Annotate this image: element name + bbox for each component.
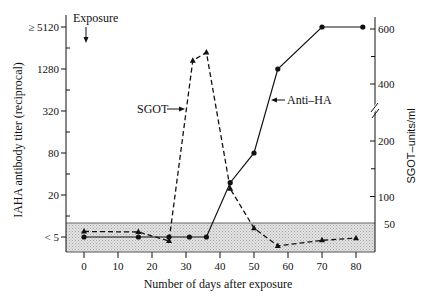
- left-tick-label: 20: [48, 189, 60, 201]
- arrow-left-icon: [271, 98, 277, 103]
- circle-marker-icon: [81, 234, 86, 239]
- left-y-axis-title: IAHA antibody titer (reciprocal): [11, 62, 25, 218]
- series-line: [84, 52, 356, 246]
- x-tick-label: 30: [181, 260, 193, 272]
- circle-marker-icon: [319, 24, 324, 29]
- triangle-marker-icon: [190, 57, 196, 63]
- sgot-label: SGOT: [137, 102, 169, 116]
- circle-marker-icon: [275, 66, 280, 71]
- triangle-marker-icon: [203, 49, 209, 55]
- x-axis-ticks: 01020304050607080: [81, 252, 362, 272]
- exposure-label: Exposure: [73, 11, 118, 25]
- right-y-axis-title: SGOT–units/ml: [405, 108, 417, 183]
- left-tick-label: 80: [48, 147, 60, 159]
- x-tick-label: 20: [147, 260, 159, 272]
- left-tick-label: < 5: [45, 231, 60, 243]
- series-layer: [81, 24, 365, 247]
- series-sgot: [81, 49, 359, 248]
- circle-marker-icon: [228, 180, 233, 185]
- circle-marker-icon: [251, 150, 256, 155]
- circle-marker-icon: [204, 234, 209, 239]
- x-tick-label: 80: [351, 260, 363, 272]
- arrow-down-icon: [84, 37, 89, 43]
- antiha-label: Anti–HA: [287, 93, 332, 107]
- left-tick-label: 1280: [37, 63, 60, 75]
- right-tick-label: 200: [378, 135, 395, 147]
- right-tick-label: 600: [378, 23, 395, 35]
- antiha-series-label: Anti–HA: [271, 93, 332, 107]
- left-tick-label: 320: [43, 105, 60, 117]
- sgot-series-label: SGOT: [137, 102, 185, 116]
- x-tick-label: 40: [215, 260, 227, 272]
- exposure-annotation: Exposure: [73, 11, 118, 43]
- series-line: [84, 27, 363, 237]
- x-tick-label: 10: [113, 260, 125, 272]
- left-axis-ticks: ≥ 512012803208020< 5: [28, 21, 70, 243]
- x-tick-label: 60: [283, 260, 295, 272]
- series-anti-ha: [81, 24, 365, 239]
- arrow-right-icon: [179, 107, 185, 112]
- x-axis-title: Number of days after exposure: [144, 277, 293, 291]
- left-tick-label: ≥ 5120: [28, 21, 59, 33]
- x-tick-label: 70: [317, 260, 329, 272]
- right-tick-label: 400: [378, 78, 395, 90]
- circle-marker-icon: [187, 234, 192, 239]
- chart-figure: ≥ 512012803208020< 5 60040020010050 0102…: [0, 0, 437, 304]
- x-tick-label: 0: [81, 260, 87, 272]
- circle-marker-icon: [360, 24, 365, 29]
- circle-marker-icon: [136, 234, 141, 239]
- right-tick-label: 100: [378, 191, 395, 203]
- right-axis-ticks: 60040020010050: [370, 23, 396, 230]
- x-tick-label: 50: [249, 260, 261, 272]
- right-extra-label: 50: [384, 218, 396, 230]
